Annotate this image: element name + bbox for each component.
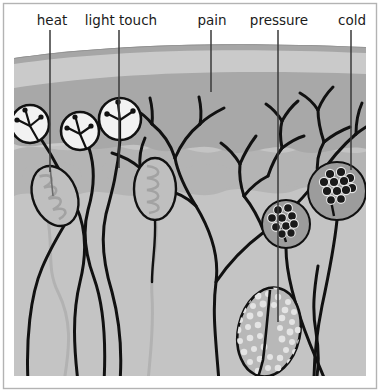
label-pressure: pressure: [250, 12, 308, 28]
label-cold: cold: [338, 12, 366, 28]
skin-cross-section: [10, 40, 378, 382]
skin-receptor-diagram: heat light touch pain pressure cold: [0, 0, 380, 392]
free-nerve-ending-2: [61, 112, 99, 150]
free-nerve-ending-1: [11, 105, 49, 143]
figure-canvas: heat light touch pain pressure cold: [0, 0, 380, 392]
free-nerve-ending-3: [99, 98, 141, 140]
label-pain: pain: [197, 12, 226, 28]
label-light-touch: light touch: [85, 12, 157, 28]
label-heat: heat: [37, 12, 67, 28]
meissner-corpuscle-2: [134, 158, 176, 220]
